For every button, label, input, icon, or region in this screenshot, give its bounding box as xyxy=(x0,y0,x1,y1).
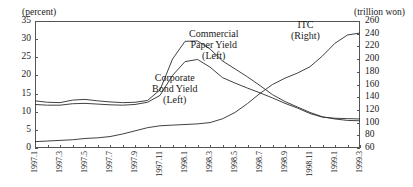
x-axis-tick-mark xyxy=(123,145,124,148)
x-axis-tick: 1997.9 xyxy=(128,151,142,185)
x-axis-tick-mark xyxy=(185,145,186,148)
x-axis-tick-mark xyxy=(35,145,36,148)
x-axis-tick: 1998.3 xyxy=(203,151,217,185)
right-axis-tick-mark xyxy=(357,59,360,60)
x-axis-tick-mark xyxy=(98,145,99,148)
x-axis-tick-label: 1997.9 xyxy=(131,151,139,173)
left-axis-tick-mark xyxy=(35,75,38,76)
x-axis-tick-mark xyxy=(148,145,149,148)
annotation-commercial-paper: Commercial Paper Yield (Left) xyxy=(189,29,238,61)
x-axis-tick-label: 1998.3 xyxy=(206,151,214,173)
x-axis-tick: 1997.1 xyxy=(28,151,42,185)
x-axis-tick-label: 1997.11 xyxy=(156,151,164,177)
left-axis-tick-mark xyxy=(35,112,38,113)
x-axis-tick-label: 1998.11 xyxy=(306,151,314,177)
x-axis-tick: 1998.11 xyxy=(303,151,317,185)
x-axis-tick-label: 1998.1 xyxy=(181,151,189,173)
x-axis-tick-mark xyxy=(348,145,349,148)
right-axis-tick-mark xyxy=(357,46,360,47)
x-axis-tick-mark xyxy=(335,145,336,148)
x-axis-tick-mark xyxy=(223,145,224,148)
left-axis-tick-mark xyxy=(35,57,38,58)
right-axis-tick-mark xyxy=(357,135,360,136)
right-axis-tick-mark xyxy=(357,85,360,86)
right-axis-tick-mark xyxy=(357,123,360,124)
x-axis-tick-mark xyxy=(173,145,174,148)
left-axis-tick: 30 xyxy=(22,34,32,44)
left-axis-tick-mark xyxy=(35,94,38,95)
x-axis-tick-mark xyxy=(198,145,199,148)
left-axis-tick-mark xyxy=(35,130,38,131)
left-axis-tick: 35 xyxy=(22,16,32,26)
x-axis-tick-mark xyxy=(235,145,236,148)
x-axis-tick: 1999.3 xyxy=(353,151,367,185)
x-axis-tick-mark xyxy=(310,145,311,148)
x-axis-tick-mark xyxy=(85,145,86,148)
x-axis-tick-label: 1999.3 xyxy=(356,151,364,173)
x-axis-tick-label: 1999.1 xyxy=(331,151,339,173)
x-axis-tick-mark xyxy=(135,145,136,148)
right-axis-tick-mark xyxy=(357,110,360,111)
annotation-itc-line2: (Right) xyxy=(291,31,320,42)
right-axis-tick-mark xyxy=(357,34,360,35)
x-axis-tick-mark xyxy=(48,145,49,148)
x-axis-tick-mark xyxy=(260,145,261,148)
x-axis-tick-label: 1998.5 xyxy=(231,151,239,173)
left-axis-tick: 20 xyxy=(22,71,32,81)
x-axis-tick-label: 1998.7 xyxy=(256,151,264,173)
right-axis-tick: 240 xyxy=(365,29,379,39)
x-axis-tick-label: 1998.9 xyxy=(281,151,289,173)
left-axis-tick: 5 xyxy=(26,125,31,135)
annotation-itc: ITC (Right) xyxy=(291,20,320,42)
x-axis-tick-mark xyxy=(73,145,74,148)
right-axis-tick: 160 xyxy=(365,80,379,90)
x-axis-tick-label: 1997.7 xyxy=(106,151,114,173)
x-axis-tick-label: 1997.1 xyxy=(31,151,39,173)
x-axis-tick-label: 1997.3 xyxy=(56,151,64,173)
x-axis-tick-mark xyxy=(323,145,324,148)
right-axis-tick: 140 xyxy=(365,92,379,102)
chart-figure: (percent) (trillion won) 35302520151050 … xyxy=(0,0,413,187)
right-axis-unit-label: (trillion won) xyxy=(354,7,405,17)
annotation-cb-line3: (Left) xyxy=(152,95,197,106)
x-axis-tick: 1998.1 xyxy=(178,151,192,185)
right-axis-tick-mark xyxy=(357,72,360,73)
x-axis-tick: 1998.9 xyxy=(278,151,292,185)
x-axis-tick-mark xyxy=(273,145,274,148)
x-axis-tick-mark xyxy=(110,145,111,148)
right-axis-tick-mark xyxy=(357,21,360,22)
left-axis-tick: 15 xyxy=(22,89,32,99)
left-axis-tick-mark xyxy=(35,39,38,40)
right-axis-tick: 260 xyxy=(365,16,379,26)
right-axis-tick: 200 xyxy=(365,54,379,64)
right-axis-tick: 100 xyxy=(365,118,379,128)
annotation-corporate-bond: Corporate Bond Yield (Left) xyxy=(152,73,197,105)
right-axis-tick: 180 xyxy=(365,67,379,77)
right-axis-tick: 80 xyxy=(365,131,375,141)
x-axis-tick-mark xyxy=(360,145,361,148)
x-axis-tick-mark xyxy=(160,145,161,148)
right-axis-tick-mark xyxy=(357,97,360,98)
series-line xyxy=(35,59,360,119)
x-axis-tick-label: 1997.5 xyxy=(81,151,89,173)
x-axis-tick: 1998.7 xyxy=(253,151,267,185)
right-axis-tick: 120 xyxy=(365,105,379,115)
annotation-cp-line3: (Left) xyxy=(189,51,238,62)
annotation-cb-line2: Bond Yield xyxy=(152,84,197,95)
left-axis-tick: 10 xyxy=(22,107,32,117)
x-axis-tick: 1999.1 xyxy=(328,151,342,185)
left-axis-tick-mark xyxy=(35,21,38,22)
annotation-cp-line2: Paper Yield xyxy=(189,40,238,51)
x-axis-tick-mark xyxy=(298,145,299,148)
right-axis-tick-mark xyxy=(357,148,360,149)
x-axis-tick: 1997.7 xyxy=(103,151,117,185)
x-axis-tick: 1997.3 xyxy=(53,151,67,185)
left-axis-tick-mark xyxy=(35,148,38,149)
x-axis-tick-mark xyxy=(60,145,61,148)
x-axis-tick: 1998.5 xyxy=(228,151,242,185)
x-axis-tick-mark xyxy=(248,145,249,148)
x-axis-tick: 1997.11 xyxy=(153,151,167,185)
x-axis-tick-mark xyxy=(285,145,286,148)
right-axis-tick: 220 xyxy=(365,42,379,52)
x-axis-tick: 1997.5 xyxy=(78,151,92,185)
